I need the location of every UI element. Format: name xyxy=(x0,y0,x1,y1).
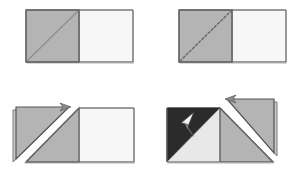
right-panel-white xyxy=(79,108,134,162)
right-panel-white xyxy=(79,10,133,62)
panel-4-canvas xyxy=(153,90,306,180)
instruction-panel-step-4 xyxy=(153,90,306,180)
instruction-panel-step-2 xyxy=(153,0,306,90)
right-panel-white xyxy=(232,10,286,62)
panel-1-canvas xyxy=(0,0,153,90)
instruction-panel-step-1 xyxy=(0,0,153,90)
instruction-panel-step-3 xyxy=(0,90,153,180)
panel-2-canvas xyxy=(153,0,306,90)
folding-instruction-figure: Napkin Folding Instruction Sequence Flat… xyxy=(0,0,306,180)
panel-3-canvas xyxy=(0,90,153,180)
